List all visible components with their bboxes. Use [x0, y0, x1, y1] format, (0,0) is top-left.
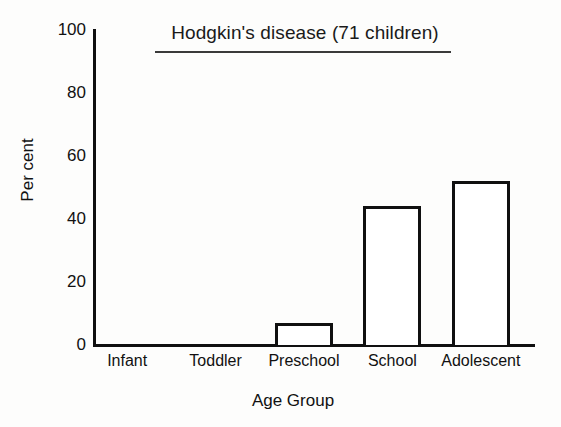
y-tick-label: 40 [46, 209, 86, 229]
chart-figure: Hodgkin's disease (71 children) Per cent… [0, 0, 561, 427]
bar-preschool [275, 323, 333, 345]
x-tick-label-adolescent: Adolescent [441, 352, 520, 370]
y-tick-label: 60 [46, 146, 86, 166]
bar-school [363, 206, 421, 345]
y-tick-label: 80 [46, 83, 86, 103]
y-tick-label: 100 [46, 20, 86, 40]
y-tick-label: 20 [46, 272, 86, 292]
x-tick-label-toddler: Toddler [189, 352, 241, 370]
x-tick-label-school: School [368, 352, 417, 370]
y-axis-label: Per cent [18, 120, 38, 220]
y-tick-label: 0 [46, 335, 86, 355]
x-tick-label-preschool: Preschool [268, 352, 339, 370]
x-tick-label-infant: Infant [107, 352, 147, 370]
bar-adolescent [452, 181, 510, 345]
x-axis-label: Age Group [213, 391, 373, 411]
bar-series-group [93, 30, 535, 345]
x-tick-label-group: InfantToddlerPreschoolSchoolAdolescent [93, 352, 535, 378]
y-tick-label-group: 020406080100 [40, 30, 86, 345]
